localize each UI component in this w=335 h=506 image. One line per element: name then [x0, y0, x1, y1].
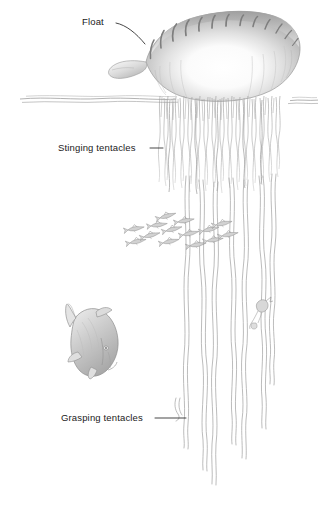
label-float: Float [82, 17, 104, 27]
large-fish [66, 304, 118, 379]
label-grasping-tentacles: Grasping tentacles [61, 413, 143, 423]
label-stinging-tentacles: Stinging tentacles [58, 143, 136, 153]
leader-line-float [116, 23, 145, 44]
illustration-canvas [0, 0, 335, 506]
water-surface [20, 96, 318, 104]
illustration-figure: Float Stinging tentacles Grasping tentac… [0, 0, 335, 506]
grasping-tentacle-stub [175, 398, 182, 421]
school-of-small-fish [123, 209, 239, 250]
long-grasping-tentacles [183, 174, 276, 485]
gas-filled-float [109, 11, 301, 101]
